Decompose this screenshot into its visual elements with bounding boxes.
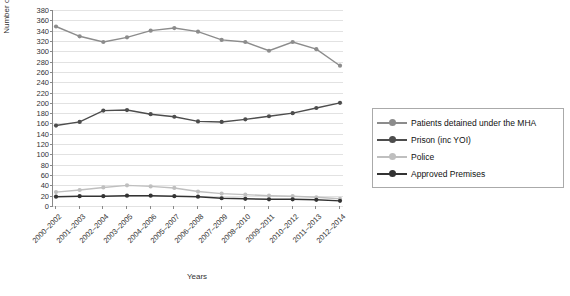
- gridline: [53, 206, 343, 207]
- data-point: [54, 190, 58, 194]
- data-point: [149, 29, 153, 33]
- x-tick-mark: [268, 206, 269, 209]
- chart-panel: Number of deaths 02040608010012014016018…: [0, 0, 360, 296]
- legend-label: Police: [407, 152, 434, 162]
- x-tick-mark: [221, 206, 222, 209]
- x-tick-mark: [150, 206, 151, 209]
- x-tick-mark: [79, 206, 80, 209]
- x-tick-mark: [339, 206, 340, 209]
- y-tick-mark: [50, 206, 53, 207]
- data-point: [125, 183, 129, 187]
- y-tick-label: 0: [45, 202, 49, 211]
- data-point: [291, 111, 295, 115]
- data-point: [267, 197, 271, 201]
- data-point: [243, 197, 247, 201]
- y-tick-label: 220: [36, 88, 49, 97]
- legend-marker-icon: [377, 134, 407, 146]
- data-point: [220, 196, 224, 200]
- legend-marker-icon: [377, 151, 407, 163]
- y-tick-label: 80: [41, 160, 49, 169]
- data-point: [338, 101, 342, 105]
- data-point: [314, 106, 318, 110]
- y-tick-label: 20: [41, 191, 49, 200]
- y-tick-label: 40: [41, 181, 49, 190]
- data-point: [172, 115, 176, 119]
- series-lines: [53, 10, 343, 206]
- data-point: [338, 64, 342, 68]
- legend-label: Approved Premises: [407, 169, 485, 179]
- y-axis-label: Number of deaths: [2, 0, 11, 62]
- data-point: [125, 108, 129, 112]
- legend-item[interactable]: Prison (inc YOI): [377, 131, 559, 148]
- data-point: [54, 195, 58, 199]
- data-point: [149, 194, 153, 198]
- data-point: [172, 194, 176, 198]
- y-tick-label: 240: [36, 78, 49, 87]
- data-point: [101, 194, 105, 198]
- data-point: [267, 194, 271, 198]
- data-point: [54, 123, 58, 127]
- data-point: [243, 40, 247, 44]
- data-point: [172, 26, 176, 30]
- x-tick-mark: [55, 206, 56, 209]
- x-axis-ticks: 2000–20022001–20032002–20042003–20052004…: [52, 208, 342, 278]
- data-point: [314, 47, 318, 51]
- data-point: [101, 108, 105, 112]
- x-tick-mark: [173, 206, 174, 209]
- data-point: [78, 188, 82, 192]
- y-tick-label: 380: [36, 6, 49, 15]
- data-point: [291, 197, 295, 201]
- y-tick-label: 320: [36, 36, 49, 45]
- data-point: [78, 120, 82, 124]
- data-point: [196, 119, 200, 123]
- y-tick-label: 60: [41, 171, 49, 180]
- y-tick-label: 100: [36, 150, 49, 159]
- x-tick-mark: [244, 206, 245, 209]
- legend-label: Prison (inc YOI): [407, 135, 471, 145]
- x-tick-mark: [292, 206, 293, 209]
- data-point: [314, 198, 318, 202]
- data-point: [101, 40, 105, 44]
- data-point: [291, 40, 295, 44]
- y-tick-label: 160: [36, 119, 49, 128]
- legend-item[interactable]: Police: [377, 148, 559, 165]
- x-tick-mark: [126, 206, 127, 209]
- x-tick-label: 2012–2014: [300, 212, 347, 259]
- data-point: [54, 24, 58, 28]
- legend-item[interactable]: Patients detained under the MHA: [377, 114, 559, 131]
- data-point: [196, 189, 200, 193]
- x-tick-mark: [315, 206, 316, 209]
- y-axis-label-text: Number of deaths: [2, 0, 11, 62]
- data-point: [267, 114, 271, 118]
- data-point: [101, 185, 105, 189]
- plot-area: 0204060801001201401601802002202402602803…: [52, 10, 343, 207]
- x-tick-mark: [102, 206, 103, 209]
- legend-item[interactable]: Approved Premises: [377, 165, 559, 182]
- data-point: [220, 192, 224, 196]
- legend-marker-icon: [377, 117, 407, 129]
- y-tick-label: 340: [36, 26, 49, 35]
- data-point: [149, 112, 153, 116]
- data-point: [172, 186, 176, 190]
- y-tick-label: 280: [36, 57, 49, 66]
- data-point: [220, 120, 224, 124]
- data-point: [267, 49, 271, 53]
- y-tick-label: 180: [36, 109, 49, 118]
- y-tick-label: 300: [36, 47, 49, 56]
- y-tick-label: 200: [36, 98, 49, 107]
- data-point: [243, 193, 247, 197]
- legend-label: Patients detained under the MHA: [407, 118, 536, 128]
- y-tick-label: 260: [36, 67, 49, 76]
- y-tick-label: 360: [36, 16, 49, 25]
- y-tick-label: 140: [36, 129, 49, 138]
- data-point: [196, 30, 200, 34]
- x-tick-mark: [197, 206, 198, 209]
- data-point: [125, 194, 129, 198]
- data-point: [220, 38, 224, 42]
- data-point: [149, 184, 153, 188]
- data-point: [338, 199, 342, 203]
- x-axis-label: Years: [52, 272, 342, 281]
- legend-marker-icon: [377, 168, 407, 180]
- data-point: [196, 195, 200, 199]
- y-tick-label: 120: [36, 140, 49, 149]
